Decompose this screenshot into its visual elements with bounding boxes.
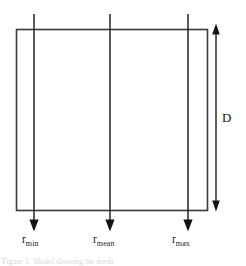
label-r-max-subscript: max <box>176 239 190 248</box>
flow-arrow-r-min <box>29 14 38 232</box>
flow-arrow-r-mean <box>105 14 114 232</box>
domain-rectangle <box>17 30 208 211</box>
label-r-max: rmax <box>172 234 190 246</box>
label-r-mean-subscript: mean <box>97 239 115 248</box>
label-r-mean: rmean <box>93 234 115 246</box>
label-r-min: rmin <box>22 234 39 246</box>
dimension-arrow-depth <box>212 24 220 212</box>
flow-arrow-r-max <box>183 14 192 232</box>
label-r-min-subscript: min <box>26 239 39 248</box>
figure-caption: Figure 1. Model showing the mesh <box>2 257 246 266</box>
label-depth: D <box>222 111 231 124</box>
